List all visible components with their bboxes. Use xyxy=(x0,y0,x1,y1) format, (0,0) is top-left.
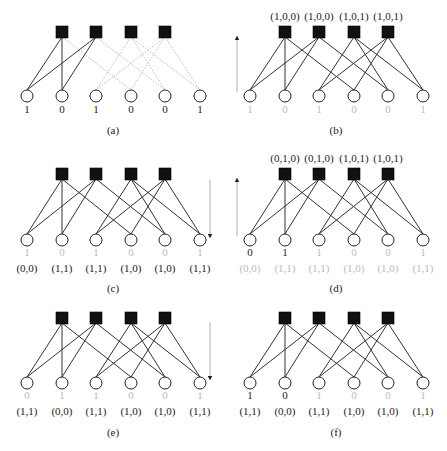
variable-pair-2: (0,0) xyxy=(51,405,72,418)
variable-node-1 xyxy=(21,234,33,246)
variable-value-4: 0 xyxy=(351,103,357,115)
variable-value-2: 0 xyxy=(282,103,288,115)
variable-node-4 xyxy=(125,90,137,102)
variable-node-4 xyxy=(348,234,360,246)
variable-value-5: 0 xyxy=(162,246,168,258)
check-node-2 xyxy=(90,312,102,324)
edge-c1-v1 xyxy=(27,323,62,377)
variable-pair-6: (1,1) xyxy=(189,262,210,275)
edge-c1-v1 xyxy=(250,179,285,234)
variable-value-6: 1 xyxy=(420,103,426,115)
variable-value-5: 0 xyxy=(385,246,391,258)
check-label-4: (1,0,1) xyxy=(373,10,403,23)
check-label-1: (0,1,0) xyxy=(270,152,300,165)
variable-value-3: 1 xyxy=(316,246,322,258)
panel-e: 0(1,1)1(0,0)1(1,1)0(1,0)0(1,0)1(1,1)(e) xyxy=(16,312,210,439)
check-label-3: (1,0,1) xyxy=(339,152,369,165)
check-label-1: (1,0,0) xyxy=(270,10,300,23)
variable-node-1 xyxy=(244,377,256,389)
panel-a: 101001(a) xyxy=(21,26,206,137)
check-node-3 xyxy=(348,312,360,324)
variable-pair-5: (1,0) xyxy=(377,405,398,418)
variable-pair-4: (1,0) xyxy=(343,405,364,418)
panel-label-b: (b) xyxy=(330,124,343,137)
variable-pair-1: (0,0) xyxy=(16,262,37,275)
check-node-4 xyxy=(382,26,394,38)
edge-c1-v4 xyxy=(62,179,131,234)
variable-value-2: 1 xyxy=(282,246,288,258)
check-node-4 xyxy=(159,168,171,180)
check-node-1 xyxy=(56,312,68,324)
variable-pair-3: (1,1) xyxy=(308,262,329,275)
variable-node-3 xyxy=(313,377,325,389)
variable-value-3: 1 xyxy=(316,103,322,115)
edge-c4-v6 xyxy=(388,37,423,90)
check-node-3 xyxy=(125,26,137,38)
edge-c3-v6 xyxy=(131,179,200,234)
variable-value-6: 1 xyxy=(197,103,203,115)
edge-c1-v1 xyxy=(27,179,62,234)
caption-fragment xyxy=(0,446,447,451)
variable-value-6: 1 xyxy=(197,389,203,401)
variable-pair-6: (1,1) xyxy=(412,262,433,275)
edge-c2-v2 xyxy=(62,179,96,234)
edge-c2-v2 xyxy=(285,179,319,234)
edge-c1-v4 xyxy=(285,37,354,90)
variable-pair-6: (1,1) xyxy=(189,405,210,418)
variable-pair-6: (1,1) xyxy=(412,405,433,418)
panel-f: 1(1,1)0(0,0)1(1,1)0(1,0)0(1,0)1(1,1)(f) xyxy=(239,312,433,439)
check-node-2 xyxy=(90,26,102,38)
variable-value-3: 1 xyxy=(93,103,99,115)
variable-value-6: 1 xyxy=(197,246,203,258)
variable-pair-3: (1,1) xyxy=(85,405,106,418)
variable-node-5 xyxy=(382,377,394,389)
variable-node-1 xyxy=(244,234,256,246)
variable-node-3 xyxy=(90,90,102,102)
edge-c2-v2 xyxy=(285,37,319,90)
variable-pair-2: (1,1) xyxy=(274,262,295,275)
variable-value-5: 0 xyxy=(385,389,391,401)
panel-d: (0,1,0)(0,1,0)(1,0,1)(1,0,1)0(0,0)1(1,1)… xyxy=(237,152,434,295)
variable-value-5: 0 xyxy=(162,389,168,401)
variable-node-5 xyxy=(159,90,171,102)
variable-value-5: 0 xyxy=(162,103,168,115)
check-node-1 xyxy=(279,312,291,324)
variable-pair-5: (1,0) xyxy=(154,405,175,418)
variable-node-2 xyxy=(56,377,68,389)
variable-node-2 xyxy=(56,90,68,102)
variable-value-4: 0 xyxy=(351,389,357,401)
check-node-4 xyxy=(382,168,394,180)
check-node-4 xyxy=(159,26,171,38)
variable-pair-4: (1,0) xyxy=(120,405,141,418)
variable-value-1: 0 xyxy=(24,389,30,401)
check-label-2: (1,0,0) xyxy=(304,10,334,23)
variable-node-4 xyxy=(348,90,360,102)
edge-c4-v6 xyxy=(165,37,200,90)
check-node-4 xyxy=(382,312,394,324)
variable-node-1 xyxy=(21,377,33,389)
variable-node-3 xyxy=(90,377,102,389)
variable-pair-2: (1,1) xyxy=(51,262,72,275)
edge-c4-v6 xyxy=(388,323,423,377)
variable-value-1: 1 xyxy=(247,389,253,401)
variable-value-5: 0 xyxy=(385,103,391,115)
edge-c1-v4 xyxy=(285,323,354,377)
variable-value-4: 0 xyxy=(128,246,134,258)
edge-c1-v1 xyxy=(250,37,285,90)
check-label-3: (1,0,1) xyxy=(339,10,369,23)
check-label-4: (1,0,1) xyxy=(373,152,403,165)
check-node-1 xyxy=(56,168,68,180)
edge-c3-v6 xyxy=(354,37,423,90)
edge-c4-v6 xyxy=(165,179,200,234)
edge-c1-v4 xyxy=(285,179,354,234)
variable-pair-1: (1,1) xyxy=(239,405,260,418)
edge-c2-v2 xyxy=(285,323,319,377)
edge-c3-v6 xyxy=(131,37,200,90)
variable-node-5 xyxy=(382,234,394,246)
check-node-3 xyxy=(348,26,360,38)
edge-c2-v2 xyxy=(62,323,96,377)
edge-c3-v6 xyxy=(131,323,200,377)
variable-pair-4: (1,0) xyxy=(120,262,141,275)
edge-c3-v3 xyxy=(319,37,354,90)
variable-value-2: 0 xyxy=(59,246,65,258)
